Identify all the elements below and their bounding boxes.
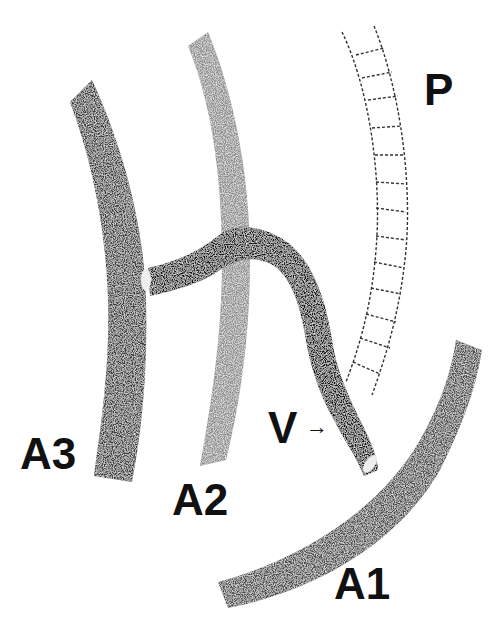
label-p: P (424, 68, 453, 112)
label-a1: A1 (334, 562, 390, 606)
diagram-canvas: P A3 A2 V → A1 (0, 0, 502, 624)
vessel-v-graft (148, 227, 378, 476)
vessel-p (342, 26, 408, 395)
label-a3: A3 (20, 432, 76, 476)
v-pointer-arrow: → (306, 416, 328, 438)
vessel-a3 (70, 80, 146, 482)
label-a2: A2 (172, 478, 228, 522)
anastomosis-a3 (141, 269, 151, 291)
label-v: V (268, 406, 297, 450)
